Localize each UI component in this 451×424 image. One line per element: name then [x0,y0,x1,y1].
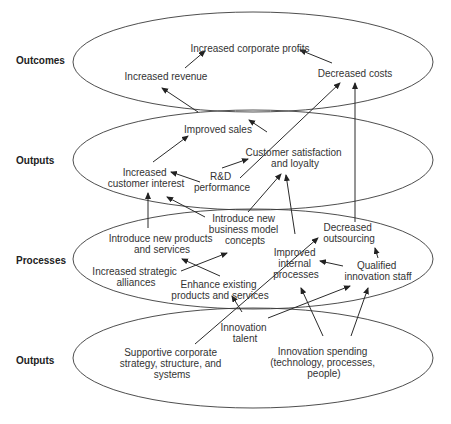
node-innovation-talent: Innovation talent [221,322,270,344]
node-introduce-new-products: Introduce new products and services [109,233,216,255]
outcomes-ellipse [73,12,433,112]
arrow-sales-to-revenue [162,88,198,112]
node-increased-corporate-profits: Increased corporate profits [191,43,310,54]
arrow-improved-to-satisfaction [286,175,295,234]
outputs-ellipse [73,110,433,210]
arrow-qualified-to-outsourcing [375,248,378,258]
node-improved-sales: Improved sales [184,124,252,135]
node-increased-revenue: Increased revenue [125,71,208,82]
node-introduce-business-model: Introduce new business model concepts [209,213,281,246]
node-supportive-corporate-strategy: Supportive corporate strategy, structure… [120,347,224,380]
arrow-bizmodel-to-satisfaction [248,174,281,212]
node-increased-strategic-alliances: Increased strategic alliances [92,266,179,288]
arrow-interest-to-sales [153,136,188,162]
arrow-talent-to-qualified [268,286,350,318]
row-label-outputs: Outputs [16,155,55,166]
arrow-qualified-to-improved [320,261,343,266]
node-rnd-performance: R&D performance [194,171,251,193]
node-decreased-outsourcing: Decreased outsourcing [323,222,375,244]
row-label-outputs-bottom: Outputs [16,355,55,366]
node-enhance-existing-products: Enhance existing products and services [171,279,268,301]
node-improved-internal-processes: Improved internal processes [273,247,319,280]
innovation-value-diagram: Outcomes Outputs Processes Outputs Incre… [0,0,451,424]
node-increased-customer-interest: Increased customer interest [108,167,185,189]
node-innovation-spending: Innovation spending (technology, process… [270,346,378,379]
arrow-enhance-to-newproducts [182,259,220,276]
row-label-processes: Processes [16,255,66,266]
node-qualified-innovation-staff: Qualified innovation staff [344,260,411,282]
arrow-rnd-to-satisfaction [222,159,248,168]
arrow-spending-to-improved [301,288,323,336]
node-decreased-costs: Decreased costs [318,68,392,79]
row-label-outcomes: Outcomes [16,55,65,66]
arrow-spending-to-qualified [351,288,368,336]
